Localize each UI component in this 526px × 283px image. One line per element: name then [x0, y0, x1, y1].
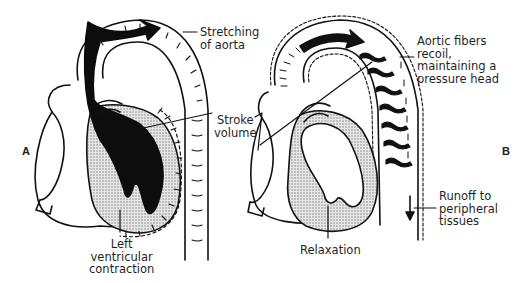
- arch-ticks-b: [280, 48, 300, 86]
- label-aortic-fibers-recoil: Aortic fibers recoil, maintaining a pres…: [417, 35, 499, 85]
- panel-letter-b: B: [502, 145, 510, 157]
- label-runoff-to-peripheral-tissues: Runoff to peripheral tissues: [439, 190, 498, 228]
- label-left-ventricular-contraction: Left ventricular contraction: [89, 238, 154, 276]
- label-relaxation: Relaxation: [300, 244, 361, 257]
- runoff-arrowhead: [406, 212, 414, 220]
- label-stroke-volume: Stroke volume: [214, 114, 257, 139]
- panel-letter-a: A: [22, 145, 30, 157]
- panel-a-illustration: [35, 20, 262, 260]
- panel-b-illustration: [248, 16, 436, 240]
- label-stretching-of-aorta: Stretching of aorta: [200, 26, 259, 51]
- appendage-a: [36, 200, 52, 214]
- right-atrium-a: [40, 112, 64, 200]
